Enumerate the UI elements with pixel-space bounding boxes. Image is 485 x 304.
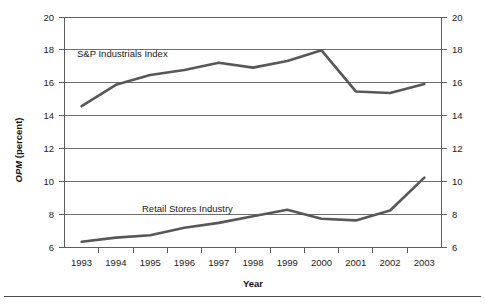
right-axis-ticks [442, 18, 448, 248]
right-y-tick-labels: 20 18 16 14 12 10 8 6 [452, 12, 463, 253]
y-axis-title: OPM (percent) [13, 118, 24, 183]
y-tick-label-right: 12 [452, 143, 463, 154]
x-tick-label: 2003 [414, 257, 435, 268]
y-axis-title-italic: OPM [13, 160, 24, 183]
y-tick-label-right: 14 [452, 110, 463, 121]
series-line-retail-stores-industry [82, 178, 425, 242]
y-tick-label-left: 14 [43, 110, 54, 121]
chart-figure: 20 18 16 14 12 10 8 6 20 18 16 14 12 10 … [0, 0, 485, 304]
opm-line-chart: 20 18 16 14 12 10 8 6 20 18 16 14 12 10 … [0, 0, 485, 304]
x-tick-label: 2001 [345, 257, 366, 268]
x-tick-label: 1997 [208, 257, 229, 268]
x-tick-label: 1998 [242, 257, 263, 268]
x-tick-label: 1995 [140, 257, 161, 268]
x-tick-label: 1996 [174, 257, 195, 268]
x-tick-labels: 1993 1994 1995 1996 1997 1998 1999 2000 … [71, 257, 435, 268]
y-tick-label-right: 16 [452, 77, 463, 88]
y-tick-label-left: 20 [43, 12, 54, 23]
y-tick-label-left: 12 [43, 143, 54, 154]
x-tick-label: 2002 [379, 257, 400, 268]
gridlines [65, 50, 442, 215]
y-tick-label-right: 6 [452, 242, 457, 253]
y-tick-label-right: 10 [452, 176, 463, 187]
x-tick-label: 2000 [311, 257, 332, 268]
x-tick-label: 1993 [71, 257, 92, 268]
series-annotation-retail-stores-industry: Retail Stores Industry [142, 203, 233, 214]
y-tick-label-right: 20 [452, 12, 463, 23]
x-tick-label: 1994 [105, 257, 126, 268]
left-y-tick-labels: 20 18 16 14 12 10 8 6 [43, 12, 54, 253]
y-tick-label-right: 18 [452, 44, 463, 55]
series-annotation-sp-industrials-index: S&P Industrials Index [77, 48, 168, 59]
y-tick-label-left: 10 [43, 176, 54, 187]
y-tick-label-left: 6 [49, 242, 54, 253]
y-tick-label-left: 18 [43, 44, 54, 55]
x-tick-label: 1999 [277, 257, 298, 268]
y-axis-title-plain: (percent) [13, 118, 24, 161]
y-tick-label-right: 8 [452, 209, 457, 220]
left-axis-ticks [59, 18, 65, 248]
y-tick-label-left: 16 [43, 77, 54, 88]
x-axis-title: Year [243, 278, 263, 289]
y-tick-label-left: 8 [49, 209, 54, 220]
x-axis-ticks [99, 248, 407, 254]
